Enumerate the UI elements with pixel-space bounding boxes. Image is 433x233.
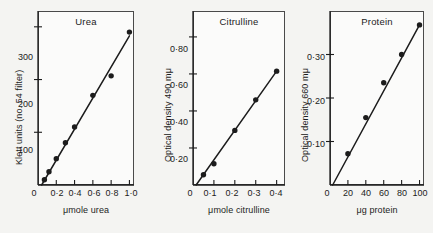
chart-title-urea: Urea	[38, 16, 134, 27]
x-tick-label-citrulline-0-2: 0·2	[221, 188, 243, 198]
x-axis-label-protein: μg protein	[330, 205, 424, 215]
x-tick-label-citrulline-0: 0	[182, 188, 198, 198]
y-tick-label-citrulline-0-40: 0·40	[155, 117, 188, 127]
plot-frame-urea	[38, 11, 134, 185]
figure-container: Urea Klett units (no. 54 filter) μmole u…	[0, 0, 433, 233]
y-tick-label-citrulline-0-80: 0·80	[155, 44, 188, 54]
x-tick-label-protein-100: 100	[409, 188, 431, 198]
x-tick-label-urea-0: 0	[26, 188, 42, 198]
y-tick-label-urea-200: 200	[0, 99, 33, 109]
y-tick-label-protein-0-30: 0·30	[292, 52, 325, 62]
x-tick-label-protein-0: 0	[319, 188, 335, 198]
y-tick-label-protein-0-20: 0·20	[292, 96, 325, 106]
x-tick-label-urea-1-0: 1·0	[120, 188, 142, 198]
y-tick-label-urea-300: 300	[0, 52, 33, 62]
y-tick-label-urea-100: 100	[0, 145, 33, 155]
x-tick-label-citrulline-0-4: 0·4	[265, 188, 287, 198]
plot-frame-citrulline	[193, 11, 285, 185]
y-tick-label-citrulline-0-60: 0·60	[155, 80, 188, 90]
chart-title-citrulline: Citrulline	[193, 16, 285, 27]
x-axis-label-citrulline: μmole citrulline	[188, 205, 290, 215]
plot-frame-protein	[330, 11, 424, 185]
x-axis-label-urea: μmole urea	[38, 205, 134, 215]
x-tick-label-citrulline-0-1: 0·1	[199, 188, 221, 198]
y-tick-label-protein-0-10: 0·10	[292, 139, 325, 149]
x-tick-label-citrulline-0-3: 0·3	[243, 188, 265, 198]
chart-title-protein: Protein	[330, 16, 424, 27]
y-tick-label-citrulline-0-20: 0·20	[155, 154, 188, 164]
